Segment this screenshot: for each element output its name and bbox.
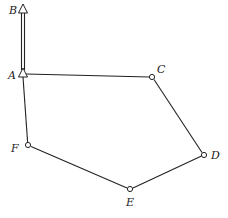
node-c-circle [149, 74, 154, 79]
label-a: A [7, 69, 16, 82]
label-e: E [125, 196, 134, 209]
edge-c-d [154, 80, 202, 153]
label-d: D [210, 149, 220, 162]
label-c: C [157, 63, 166, 76]
node-e-circle [127, 186, 132, 191]
node-f-circle [25, 142, 30, 147]
node-a-triangle [19, 68, 28, 77]
graph-diagram: A B C D E F [0, 0, 228, 218]
edge-f-a [23, 77, 28, 142]
node-d-circle [201, 152, 206, 157]
label-f: F [10, 142, 19, 155]
edge-e-f [31, 147, 127, 189]
label-b: B [8, 4, 17, 17]
edge-a-c [26, 74, 150, 77]
edge-d-e [133, 156, 202, 188]
edge-a-b [22, 13, 25, 70]
node-b-triangle [19, 4, 28, 13]
